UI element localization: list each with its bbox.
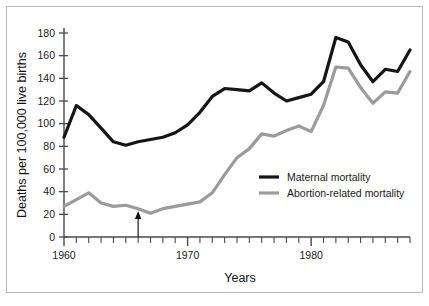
x-tick-label: 1960 (52, 249, 76, 261)
legend-label: Maternal mortality (287, 171, 371, 183)
y-tick-label: 80 (43, 140, 55, 152)
y-tick-label: 120 (37, 95, 55, 107)
x-axis: 196019701980 (52, 237, 410, 261)
y-tick-label: 40 (43, 185, 55, 197)
y-tick-label: 20 (43, 208, 55, 220)
y-axis-title: Deaths per 100,000 live births (15, 52, 29, 218)
annotation-arrow (135, 211, 141, 237)
y-tick-label: 140 (37, 72, 55, 84)
legend-label: Abortion-related mortality (287, 187, 405, 199)
chart-figure: 020406080100120140160180 196019701980 Ma… (0, 0, 429, 306)
chart-legend: Maternal mortalityAbortion-related morta… (259, 171, 405, 199)
line-chart: 020406080100120140160180 196019701980 Ma… (0, 0, 429, 306)
series-line-maternal (64, 38, 410, 146)
x-axis-title: Years (224, 271, 256, 285)
y-tick-label: 100 (37, 117, 55, 129)
x-tick-label: 1970 (176, 249, 200, 261)
y-tick-label: 0 (49, 231, 55, 243)
x-tick-label: 1980 (299, 249, 323, 261)
y-tick-label: 60 (43, 163, 55, 175)
y-tick-label: 180 (37, 27, 55, 39)
y-tick-label: 160 (37, 49, 55, 61)
